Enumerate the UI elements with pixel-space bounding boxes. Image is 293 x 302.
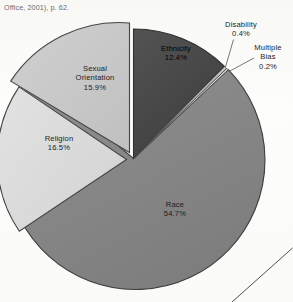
pie-label-sexual-orientation-line1: Sexual xyxy=(56,64,134,73)
pie-label-religion-name: Religion xyxy=(28,134,90,143)
scanned-page: Office, 2001), p. 62. xyxy=(0,0,293,302)
pie-label-religion-value: 16.5% xyxy=(28,143,90,152)
pie-label-ethnicity: Ethnicity 12.4% xyxy=(147,44,205,63)
pie-chart: Ethnicity 12.4% Disability 0.4% Multiple… xyxy=(0,0,293,302)
source-caption: Office, 2001), p. 62. xyxy=(4,3,69,12)
pie-label-race-value: 54.7% xyxy=(148,209,202,218)
pie-label-race-name: Race xyxy=(148,200,202,209)
pie-label-ethnicity-value: 12.4% xyxy=(147,53,205,62)
pie-label-multiple-bias-value: 0.2% xyxy=(243,62,293,71)
pie-label-religion: Religion 16.5% xyxy=(28,134,90,153)
pie-label-race: Race 54.7% xyxy=(148,200,202,219)
scan-artifact-line xyxy=(232,248,293,302)
leader-line-disability xyxy=(226,40,234,68)
pie-label-disability-name: Disability xyxy=(212,20,270,29)
pie-label-ethnicity-name: Ethnicity xyxy=(147,44,205,53)
pie-label-multiple-bias-line1: Multiple xyxy=(243,43,293,52)
pie-label-sexual-orientation-value: 15.9% xyxy=(56,83,134,92)
pie-label-multiple-bias: Multiple Bias 0.2% xyxy=(243,43,293,71)
pie-label-disability-value: 0.4% xyxy=(212,29,270,38)
pie-label-sexual-orientation-line2: Orientation xyxy=(56,73,134,82)
pie-label-sexual-orientation: Sexual Orientation 15.9% xyxy=(56,64,134,92)
pie-label-disability: Disability 0.4% xyxy=(212,20,270,39)
pie-label-multiple-bias-line2: Bias xyxy=(243,52,293,61)
